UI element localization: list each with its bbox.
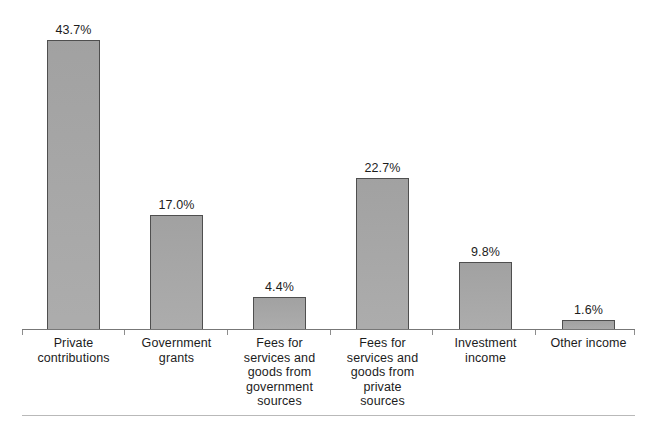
category-label-line: grants <box>125 351 228 366</box>
bar-group-government-grants: 17.0% <box>125 0 228 330</box>
bar-fees-private-sources <box>356 178 409 330</box>
x-axis-tick <box>124 330 125 335</box>
x-axis-tick <box>330 330 331 335</box>
category-label-line: sources <box>331 394 434 409</box>
category-label-line: Fees for <box>331 336 434 351</box>
x-axis-tick <box>22 330 23 335</box>
category-label-line: private <box>331 380 434 395</box>
bar-group-fees-private-sources: 22.7% <box>331 0 434 330</box>
plot-area: 43.7% 17.0% 4.4% 22.7% 9.8% 1.6% <box>0 0 655 330</box>
category-label-line: Fees for <box>228 336 331 351</box>
category-label-line: goods from <box>228 365 331 380</box>
footer-rule <box>22 415 635 416</box>
bar-fees-government-sources <box>253 297 306 330</box>
bar-value-label: 17.0% <box>125 198 228 212</box>
category-label-fees-private-sources: Fees for services and goods from private… <box>331 336 434 409</box>
category-label-line: services and <box>228 351 331 366</box>
x-axis-tick <box>432 330 433 335</box>
category-label-line: Investment <box>434 336 537 351</box>
x-axis-line <box>22 329 635 330</box>
bar-value-label: 22.7% <box>331 161 434 175</box>
category-label-other-income: Other income <box>537 336 640 351</box>
x-axis-tick <box>634 330 635 335</box>
category-label-line: services and <box>331 351 434 366</box>
bar-group-private-contributions: 43.7% <box>22 0 125 330</box>
category-label-government-grants: Government grants <box>125 336 228 365</box>
bar-investment-income <box>459 262 512 330</box>
bar-value-label: 1.6% <box>537 303 640 317</box>
category-label-line: Government <box>125 336 228 351</box>
bar-group-investment-income: 9.8% <box>434 0 537 330</box>
bar-value-label: 9.8% <box>434 245 537 259</box>
category-label-line: goods from <box>331 365 434 380</box>
bar-group-fees-government-sources: 4.4% <box>228 0 331 330</box>
x-axis-category-labels: Private contributions Government grants … <box>0 336 655 421</box>
bar-chart-figure: 43.7% 17.0% 4.4% 22.7% 9.8% 1.6% <box>0 0 655 430</box>
category-label-line: sources <box>228 394 331 409</box>
category-label-private-contributions: Private contributions <box>22 336 125 365</box>
category-label-line: government <box>228 380 331 395</box>
category-label-line: Other income <box>537 336 640 351</box>
bar-group-other-income: 1.6% <box>537 0 640 330</box>
category-label-line: contributions <box>22 351 125 366</box>
category-label-line: Private <box>22 336 125 351</box>
category-label-line: income <box>434 351 537 366</box>
bar-value-label: 43.7% <box>22 23 125 37</box>
x-axis-tick <box>227 330 228 335</box>
category-label-fees-government-sources: Fees for services and goods from governm… <box>228 336 331 409</box>
x-axis-tick <box>535 330 536 335</box>
category-label-investment-income: Investment income <box>434 336 537 365</box>
bar-value-label: 4.4% <box>228 280 331 294</box>
bar-private-contributions <box>47 40 100 330</box>
bar-government-grants <box>150 215 203 330</box>
